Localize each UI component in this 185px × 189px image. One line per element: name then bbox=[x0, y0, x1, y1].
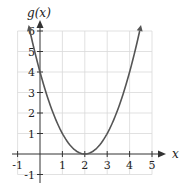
svg-text:5: 5 bbox=[149, 159, 156, 172]
svg-text:3: 3 bbox=[28, 87, 35, 100]
svg-text:-1: -1 bbox=[24, 169, 35, 182]
svg-text:2: 2 bbox=[81, 159, 88, 172]
svg-text:4: 4 bbox=[126, 159, 133, 172]
svg-text:4: 4 bbox=[28, 66, 35, 79]
x-axis-arrow-icon bbox=[158, 151, 166, 158]
svg-text:2: 2 bbox=[28, 107, 35, 120]
y-axis-arrow-icon bbox=[37, 20, 44, 28]
svg-text:1: 1 bbox=[59, 159, 66, 172]
graph: -112345-1123456 x g(x) bbox=[0, 0, 185, 189]
y-axis-label: g(x) bbox=[27, 6, 51, 20]
svg-text:3: 3 bbox=[104, 159, 111, 172]
svg-text:-1: -1 bbox=[12, 159, 23, 172]
svg-text:1: 1 bbox=[28, 128, 35, 141]
x-axis-label: x bbox=[172, 147, 179, 161]
